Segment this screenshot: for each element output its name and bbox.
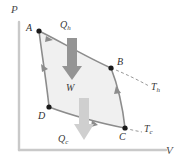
point-label-c: C — [119, 132, 126, 142]
isotherm-label-cold: Tc — [144, 124, 153, 134]
isotherm-label-cold-symbol: T — [144, 123, 150, 134]
point-label-a: A — [26, 23, 32, 33]
isotherm-label-hot-symbol: T — [151, 81, 157, 92]
heat-arrow-shaft — [79, 98, 89, 126]
heat-label-qh-subscript: h — [67, 24, 71, 32]
isotherm-label-hot: Th — [151, 82, 160, 92]
isotherm-label-hot-subscript: h — [157, 86, 161, 94]
vertex-marker-d — [46, 104, 51, 109]
vertex-marker-b — [108, 65, 113, 70]
heat-label-qc-subscript: c — [65, 138, 68, 146]
work-label: W — [66, 83, 74, 93]
heat-arrow-shaft — [67, 38, 77, 68]
vertex-marker-a — [36, 28, 41, 33]
vertex-marker-c — [122, 125, 127, 130]
y-axis-label: P — [11, 4, 18, 15]
isotherm-label-cold-subscript: c — [150, 128, 153, 136]
isotherm-cold-dashed — [125, 128, 142, 132]
heat-label-qc: Qc — [58, 134, 68, 144]
point-label-b: B — [117, 57, 123, 67]
pv-diagram-figure: P V A B C D Qh Qc W Th Tc — [0, 0, 186, 165]
x-axis-label: V — [166, 145, 173, 156]
point-label-d: D — [38, 111, 45, 121]
heat-arrow-head — [74, 124, 94, 140]
heat-label-qh: Qh — [60, 20, 71, 30]
